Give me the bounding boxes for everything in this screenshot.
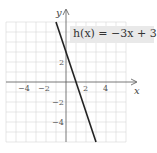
coordinate-plane: x y −4 −2 2 4 2 −2 −4 [0, 0, 157, 153]
x-axis-label: x [134, 85, 140, 96]
x-tick-label: 2 [83, 84, 88, 93]
y-tick-label: −2 [52, 98, 64, 107]
x-tick-label: −2 [38, 84, 50, 93]
y-tick-label: −4 [52, 118, 64, 127]
x-tick-label: −4 [18, 84, 30, 93]
equation-label: h(x) = −3x + 3 [73, 27, 157, 40]
y-axis-label: y [55, 7, 62, 18]
y-tick-label: 2 [59, 58, 64, 67]
x-tick-label: 4 [103, 84, 108, 93]
